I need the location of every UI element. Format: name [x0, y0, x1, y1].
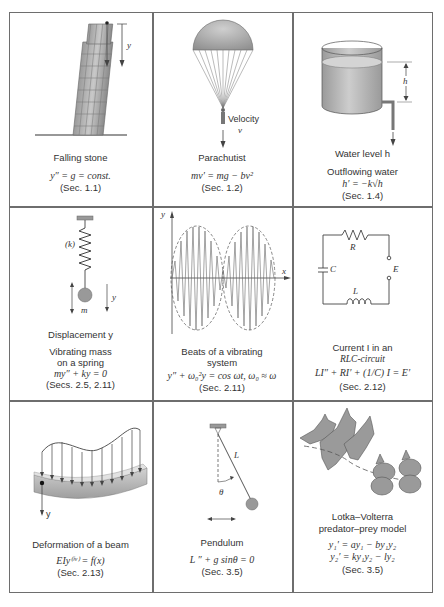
label-C: C	[330, 264, 336, 274]
label-m: m	[81, 305, 88, 315]
panel-section: (Secs. 2.5, 2.11)	[9, 379, 152, 391]
axis-label-y: y	[161, 209, 165, 219]
panel-title: Pendulum	[152, 537, 292, 549]
rabbit-icon	[371, 450, 421, 495]
label-h: h	[402, 76, 409, 86]
panel-beam: y Deformation of a beam EIy⁽ⁱᵛ⁾ = f(x) (…	[9, 400, 152, 593]
panel-lotka-volterra: Lotka–Volterra predator–prey model y₁′ =…	[292, 400, 433, 593]
label-L: L	[353, 286, 358, 296]
inductor-icon	[347, 299, 371, 304]
panel-outflowing-water: h Water level h Outflowing water h′ = −k…	[292, 12, 433, 206]
fox-icon	[300, 408, 374, 470]
panel-title: Parachutist	[152, 152, 292, 164]
panel-section: (Sec. 3.5)	[292, 564, 433, 576]
panel-title-line2: RLC-circuit	[292, 353, 433, 365]
label-L: L	[234, 450, 239, 460]
panel-equation-1: y₁′ = ay₁ − by₁y₂	[292, 539, 433, 551]
resistor-icon	[342, 230, 368, 240]
panel-title: Deformation of a beam	[9, 539, 152, 551]
label-k: (k)	[65, 239, 75, 249]
label-R: R	[350, 242, 356, 252]
displacement-caption: Displacement y	[9, 329, 152, 341]
panel-equation: LI″ + RI′ + (1/C) I = E′	[292, 367, 433, 379]
panel-equation: y″ + ω₀²y = cos ωt, ω₀ ≈ ω	[152, 370, 292, 382]
stone-icon	[105, 21, 109, 25]
panel-parachutist: Velocity v Parachutist mv′ = mg − bv² (S…	[152, 12, 292, 206]
panel-equation: mv′ = mg − bv²	[152, 170, 292, 182]
panel-title-line1: Lotka–Volterra	[292, 511, 433, 523]
panel-title: Outflowing water	[292, 166, 433, 178]
label-E: E	[393, 264, 399, 274]
label-theta: θ	[219, 487, 223, 497]
label-y: y	[46, 509, 51, 519]
panel-beats: y x Beats of a vibrating system y″ + ω₀²…	[152, 206, 292, 400]
label-v: v	[238, 125, 242, 135]
panel-equation-2: y₂′ = ky₁y₂ − ly₂	[292, 551, 433, 563]
panel-section: (Sec. 3.5)	[152, 566, 292, 578]
panel-falling-stone: y Falling stone y″ = g = const. (Sec. 1.…	[9, 12, 152, 206]
water-level-caption: Water level h	[292, 148, 433, 160]
panel-equation: L ″ + g sinθ = 0	[152, 554, 292, 566]
panel-title-line2: system	[152, 357, 292, 369]
panel-equation: h′ = −k√h	[292, 178, 433, 190]
panel-title: Falling stone	[9, 152, 152, 164]
label-velocity: Velocity	[228, 114, 259, 124]
panel-rlc-circuit: R C E L Current I in an RLC-circuit LI″ …	[292, 206, 433, 400]
panel-section: (Sec. 2.11)	[152, 382, 292, 394]
panel-section: (Sec. 1.1)	[9, 182, 152, 194]
panel-vibrating-mass: (k) y m Displacement y Vibrating mass on…	[9, 206, 152, 400]
panel-section: (Sec. 2.13)	[9, 567, 152, 579]
panel-pendulum: L θ Pendulum L ″ + g sinθ = 0 (Sec. 3.5)	[152, 400, 292, 593]
axis-label-x: x	[282, 266, 286, 276]
panel-title-line2: predator–prey model	[292, 523, 433, 535]
panel-section: (Sec. 1.2)	[152, 182, 292, 194]
panel-section: (Sec. 2.12)	[292, 381, 433, 393]
label-y: y	[127, 40, 131, 50]
label-y: y	[112, 292, 116, 302]
panel-section: (Sec. 1.4)	[292, 190, 433, 202]
panel-equation: EIy⁽ⁱᵛ⁾ = f(x)	[9, 555, 152, 567]
panel-equation: y″ = g = const.	[9, 170, 152, 182]
